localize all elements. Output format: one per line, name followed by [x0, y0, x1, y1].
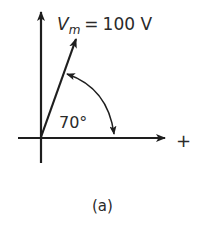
phasor-diagram: Vm=100 V 70° + (a)	[0, 0, 207, 227]
phasor-magnitude: 100 V	[103, 14, 153, 34]
phasor-label: Vm=100 V	[57, 14, 152, 37]
figure-caption: (a)	[92, 197, 113, 215]
angle-label: 70°	[59, 113, 87, 132]
positive-sign: +	[176, 130, 191, 151]
phasor-subscript: m	[69, 23, 81, 37]
equals-sign: =	[84, 14, 98, 34]
